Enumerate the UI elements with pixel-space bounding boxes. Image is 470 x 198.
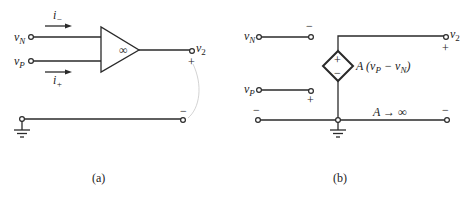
- caption-b: (b): [333, 171, 347, 185]
- ground-icon: [14, 121, 30, 137]
- figure-b: vN − vP + + − A (vP − vN) v2 +: [244, 19, 460, 185]
- figure-a: vN vP i− i+ ∞ v2: [14, 8, 206, 185]
- output-v2-b: v2 +: [442, 27, 460, 55]
- svg-text:+: +: [334, 53, 341, 67]
- svg-text:v2: v2: [450, 27, 460, 43]
- svg-text:−: −: [442, 103, 449, 117]
- svg-text:vP: vP: [244, 82, 255, 98]
- input-vn-a: vN: [14, 30, 101, 46]
- opamp-symbol: ∞: [101, 27, 139, 72]
- svg-text:i−: i−: [53, 8, 62, 24]
- svg-text:vP: vP: [14, 54, 25, 70]
- ground-rail-b: − − A → ∞: [253, 103, 449, 137]
- ground-rail-a: [14, 117, 185, 137]
- gain-note: A → ∞: [372, 105, 407, 119]
- current-arrow-minus: i−: [45, 8, 72, 29]
- svg-text:−: −: [253, 103, 260, 117]
- current-arrow-plus: i+: [45, 70, 72, 90]
- output-v2-a: v2 + −: [139, 41, 206, 118]
- source-expression: A (vP − vN): [355, 59, 410, 75]
- input-vp-a: vP: [14, 54, 101, 70]
- svg-text:vN: vN: [14, 30, 26, 46]
- caption-a: (a): [92, 171, 105, 185]
- terminal-v2-b: [444, 35, 449, 40]
- ground-node: [336, 118, 341, 123]
- terminal-v2: [190, 49, 195, 54]
- infinity-gain-label: ∞: [119, 43, 128, 57]
- svg-text:v2: v2: [196, 41, 206, 57]
- terminal-vp: [29, 59, 34, 64]
- output-minus-sign: −: [180, 104, 187, 118]
- terminal-vn: [29, 35, 34, 40]
- svg-text:−: −: [306, 19, 313, 33]
- input-vn-b: vN −: [244, 19, 313, 45]
- terminal-ground-out: [181, 118, 186, 123]
- svg-text:+: +: [307, 93, 314, 107]
- svg-text:vN: vN: [244, 29, 256, 45]
- terminal-vn-b: [257, 35, 262, 40]
- svg-text:−: −: [334, 66, 341, 80]
- svg-text:+: +: [442, 41, 449, 55]
- terminal-vp-b: [257, 88, 262, 93]
- svg-text:i+: i+: [53, 73, 62, 89]
- ground-icon: [330, 122, 346, 137]
- terminal-n-open: [309, 35, 314, 40]
- faint-arc: [188, 64, 199, 118]
